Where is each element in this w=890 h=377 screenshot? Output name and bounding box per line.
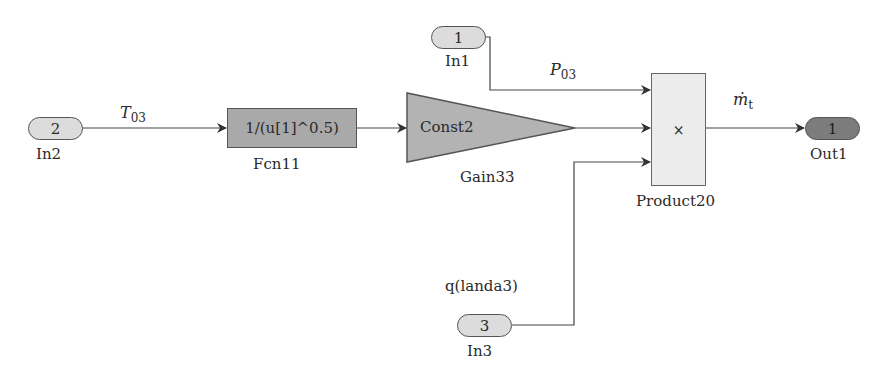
fcn-block[interactable]: 1/(u[1]^0.5) [227, 108, 357, 148]
signal-label-q-landa3: q(landa3) [445, 277, 518, 295]
gain-value: Const2 [420, 118, 473, 136]
fcn-block-label: Fcn11 [253, 155, 301, 173]
outport-out1-label: Out1 [810, 145, 848, 163]
gain-block-label: Gain33 [460, 168, 514, 186]
fcn-expression: 1/(u[1]^0.5) [245, 119, 339, 137]
outport-out1[interactable]: 1 [805, 117, 860, 140]
wire-in3-to-product [512, 162, 650, 325]
signal-p03-base: P [550, 60, 561, 79]
signal-mt-base: ṁ [733, 90, 748, 109]
inport-in1[interactable]: 1 [431, 26, 486, 49]
inport-in2[interactable]: 2 [28, 117, 83, 140]
product-block-label: Product20 [636, 192, 715, 210]
signal-label-mt: ṁt [733, 90, 753, 112]
signal-label-p03: P03 [550, 60, 576, 82]
inport-in1-number: 1 [454, 29, 464, 47]
signal-label-t03: T03 [120, 103, 146, 125]
signal-t03-base: T [120, 103, 131, 122]
outport-out1-number: 1 [828, 120, 838, 138]
inport-in1-label: In1 [445, 52, 470, 70]
signal-t03-sub: 03 [131, 111, 146, 125]
signal-mt-sub: t [748, 98, 753, 112]
inport-in2-label: In2 [36, 145, 61, 163]
multiply-icon: × [673, 122, 685, 138]
signal-p03-sub: 03 [561, 68, 576, 82]
product-block[interactable]: × [651, 73, 706, 186]
inport-in3-number: 3 [480, 317, 490, 335]
inport-in2-number: 2 [51, 120, 61, 138]
inport-in3-label: In3 [467, 342, 492, 360]
inport-in3[interactable]: 3 [457, 314, 512, 337]
